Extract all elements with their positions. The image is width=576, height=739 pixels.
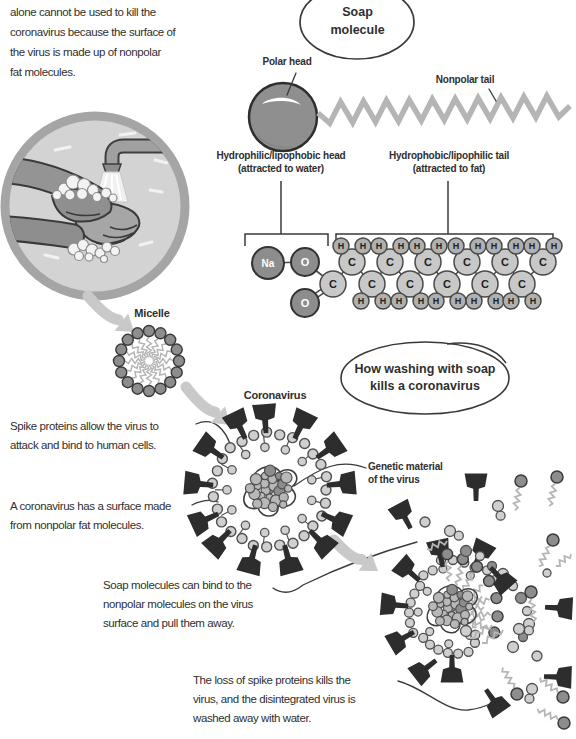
spike-protein <box>441 655 464 683</box>
svg-text:H: H <box>418 296 425 306</box>
svg-text:C: C <box>501 256 509 268</box>
spike-protein <box>465 474 488 502</box>
coronavirus-label: Coronavirus <box>225 389 325 401</box>
svg-text:H: H <box>414 241 421 251</box>
svg-text:H: H <box>530 296 537 306</box>
intro-paragraph: alone cannot be used to kill the coronav… <box>10 2 250 82</box>
svg-text:C: C <box>368 278 376 290</box>
nonpolar-tail-label: Nonpolar tail <box>420 74 510 85</box>
spike-protein <box>384 622 419 655</box>
svg-text:H: H <box>529 241 536 251</box>
micelle-illustration <box>114 326 185 397</box>
svg-text:H: H <box>360 241 367 251</box>
nonpolar-tail-zigzag <box>318 96 570 123</box>
svg-text:O: O <box>301 256 310 268</box>
polar-head-sphere <box>249 83 317 151</box>
flow-arrow <box>334 540 378 571</box>
svg-text:Na: Na <box>262 258 275 269</box>
spike-protein <box>388 499 421 534</box>
annotation-nonpolar-surface: A coronavirus has a surface made from no… <box>10 497 240 535</box>
svg-text:C: C <box>386 256 394 268</box>
svg-text:H: H <box>508 296 515 306</box>
free-soap-molecule <box>539 534 559 567</box>
svg-text:H: H <box>513 241 520 251</box>
free-soap-molecule <box>502 668 523 701</box>
hydrophobic-tail-label: Hydrophobic/lipophilic tail (attracted t… <box>363 149 535 175</box>
disintegrating-virus-illustration <box>380 538 535 659</box>
svg-text:H: H <box>475 241 482 251</box>
svg-text:C: C <box>463 256 471 268</box>
hand-washing-illustration <box>0 113 185 296</box>
polar-head-label: Polar head <box>247 56 327 67</box>
svg-text:H: H <box>453 241 460 251</box>
svg-text:H: H <box>338 241 345 251</box>
free-soap-molecule <box>538 709 571 729</box>
free-soap-molecule <box>525 586 537 622</box>
svg-text:C: C <box>329 278 337 290</box>
svg-text:C: C <box>348 256 356 268</box>
svg-text:O: O <box>301 297 310 309</box>
svg-text:C: C <box>481 278 489 290</box>
svg-text:H: H <box>455 296 462 306</box>
svg-text:C: C <box>518 278 526 290</box>
svg-text:H: H <box>358 296 365 306</box>
svg-text:C: C <box>424 256 432 268</box>
hydrophilic-head-label: Hydrophilic/lipophobic head (attracted t… <box>196 149 366 175</box>
free-soap-molecule <box>548 471 563 506</box>
genetic-material-core <box>427 584 477 632</box>
free-soap-molecule <box>514 475 527 510</box>
spike-protein <box>477 683 511 719</box>
svg-text:H: H <box>436 241 443 251</box>
genetic-material-core <box>244 465 297 516</box>
spike-protein <box>544 596 573 620</box>
annotation-soap-binds: Soap molecules can bind to the nonpolar … <box>103 576 333 633</box>
svg-text:C: C <box>406 278 414 290</box>
svg-text:H: H <box>396 296 403 306</box>
svg-text:H: H <box>380 296 387 306</box>
svg-text:H: H <box>471 296 478 306</box>
annotation-loss-of-spikes: The loss of spike proteins kills the vir… <box>193 671 443 728</box>
svg-text:H: H <box>551 241 558 251</box>
lipid-bead-pair <box>493 501 506 521</box>
how-washing-callout: How washing with soap kills a coronaviru… <box>342 361 508 395</box>
spike-protein <box>252 403 278 434</box>
svg-text:H: H <box>376 241 383 251</box>
svg-text:H: H <box>398 241 405 251</box>
infographic-canvas: NaOCOCCCCCCCCCCCHHHHHHHHHHHHHHHHHHHHHH a… <box>0 0 576 739</box>
svg-text:H: H <box>491 241 498 251</box>
svg-text:C: C <box>539 256 547 268</box>
head-bracket <box>245 181 328 246</box>
tail-bracket <box>336 181 553 246</box>
svg-text:C: C <box>443 278 451 290</box>
micelle-label: Micelle <box>114 307 190 319</box>
genetic-material-label: Genetic material of the virus <box>368 460 468 486</box>
soap-molecule-callout: Soap molecule <box>300 3 415 39</box>
soap-structural-formula: NaOCOCCCCCCCCCCCHHHHHHHHHHHHHHHHHHHHHH <box>252 238 562 317</box>
svg-text:H: H <box>433 296 440 306</box>
annotation-spike-proteins: Spike proteins allow the virus to attack… <box>10 417 240 455</box>
lipid-bead-pair <box>525 684 538 704</box>
svg-text:H: H <box>493 296 500 306</box>
